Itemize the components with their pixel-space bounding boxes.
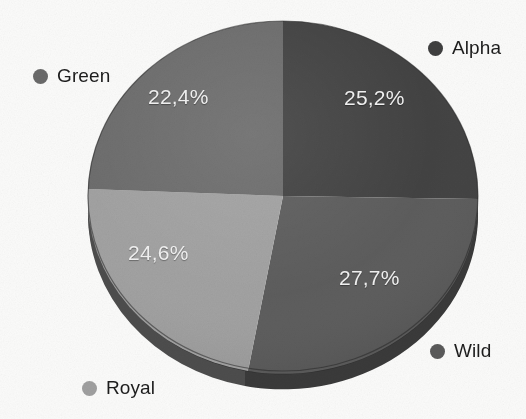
legend-item-alpha[interactable]: Alpha <box>428 37 501 59</box>
legend-label-wild: Wild <box>454 340 491 362</box>
legend-label-alpha: Alpha <box>452 37 501 59</box>
legend-item-wild[interactable]: Wild <box>430 340 491 362</box>
legend-dot-icon <box>82 381 97 396</box>
slice-value-royal: 24,6% <box>128 241 189 265</box>
pie-chart-figure: 25,2% 22,4% 24,6% 27,7% Alpha Green Roya… <box>0 0 526 419</box>
slice-value-green: 22,4% <box>148 85 209 109</box>
slice-value-wild: 27,7% <box>339 266 400 290</box>
legend-dot-icon <box>33 69 48 84</box>
legend-item-royal[interactable]: Royal <box>82 377 155 399</box>
legend-label-green: Green <box>57 65 110 87</box>
pie-sheen-overlay <box>88 21 478 371</box>
legend-label-royal: Royal <box>106 377 155 399</box>
legend-dot-icon <box>428 41 443 56</box>
slice-value-alpha: 25,2% <box>344 86 405 110</box>
legend-item-green[interactable]: Green <box>33 65 110 87</box>
legend-dot-icon <box>430 344 445 359</box>
